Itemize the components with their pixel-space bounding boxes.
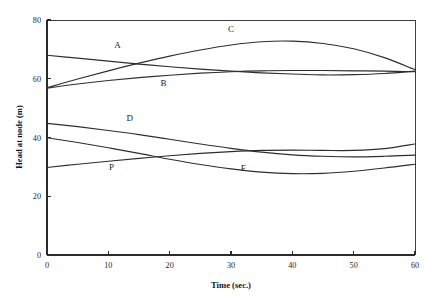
x-tick-label: 40	[288, 261, 296, 270]
x-tick-label: 50	[350, 261, 358, 270]
y-tick-label: 60	[33, 75, 41, 84]
x-axis-ticks: 0102030405060	[45, 251, 419, 270]
data-curve-f	[47, 138, 415, 174]
series-label-c: C	[228, 24, 234, 34]
line-chart: 020406080 0102030405060 ABCDPF Time (sec…	[0, 0, 439, 302]
x-tick-label: 0	[45, 261, 49, 270]
x-tick-label: 60	[411, 261, 419, 270]
x-tick-label: 10	[104, 261, 112, 270]
series-label-f: F	[241, 163, 246, 173]
y-axis-title: Head at node (m)	[14, 105, 24, 169]
y-tick-label: 40	[33, 134, 41, 143]
x-tick-label: 30	[227, 261, 235, 270]
series-label-d: D	[127, 113, 134, 123]
y-tick-label: 20	[33, 192, 41, 201]
data-series-group	[47, 41, 415, 174]
y-tick-label: 80	[33, 16, 41, 25]
y-tick-label: 0	[37, 251, 41, 260]
series-label-a: A	[114, 40, 121, 50]
x-tick-label: 20	[166, 261, 174, 270]
series-label-b: B	[161, 78, 167, 88]
series-label-p: P	[109, 162, 114, 172]
x-axis-title: Time (sec.)	[211, 280, 251, 290]
data-curve-p	[47, 144, 415, 168]
plot-frame	[47, 20, 415, 255]
chart-figure: 020406080 0102030405060 ABCDPF Time (sec…	[0, 0, 439, 302]
data-curve-b	[47, 70, 415, 88]
